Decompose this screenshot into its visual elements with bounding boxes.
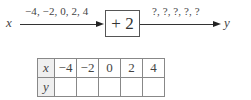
output-values-label: ?, ?, ?, ?, ? <box>152 5 200 17</box>
table-cell: −4 <box>55 59 77 78</box>
table-cell-empty <box>55 78 77 97</box>
table-cell: −2 <box>77 59 99 78</box>
row-header-y: y <box>38 78 55 97</box>
table-cell-empty <box>121 78 143 97</box>
table-cell: 4 <box>143 59 165 78</box>
input-arrow-line <box>20 24 98 25</box>
table-cell: 2 <box>121 59 143 78</box>
input-variable-label: x <box>6 15 12 31</box>
table-cell: 0 <box>99 59 121 78</box>
row-header-x: x <box>38 59 55 78</box>
output-arrow-head-icon <box>213 21 221 27</box>
table-row-x: x −4 −2 0 2 4 <box>38 59 165 78</box>
table-cell-empty <box>99 78 121 97</box>
table-row-y: y <box>38 78 165 97</box>
table-cell-empty <box>77 78 99 97</box>
output-arrow-line <box>140 24 214 25</box>
input-values-label: −4, −2, 0, 2, 4 <box>25 5 88 17</box>
output-variable-label: y <box>224 15 230 31</box>
input-output-table: x −4 −2 0 2 4 y <box>37 58 165 97</box>
table-cell-empty <box>143 78 165 97</box>
input-arrow-head-icon <box>96 21 104 27</box>
function-box: + 2 <box>105 10 140 37</box>
